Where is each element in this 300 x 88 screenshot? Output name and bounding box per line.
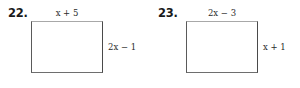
rectangle-width-label-23: 2x − 3 <box>186 8 258 18</box>
rectangle-outline-23 <box>186 21 258 73</box>
problem-number-22: 22. <box>8 7 28 19</box>
rectangle-height-label-23: x + 1 <box>263 42 286 52</box>
problem-22: 22. x + 5 2x − 1 <box>0 0 150 88</box>
problem-23: 23. 2x − 3 x + 1 <box>150 0 300 88</box>
exercise-figure-sheet: 22. x + 5 2x − 1 23. 2x − 3 x + 1 <box>0 0 300 88</box>
rectangle-height-label-22: 2x − 1 <box>108 42 136 52</box>
rectangle-width-label-22: x + 5 <box>31 8 103 18</box>
problem-number-23: 23. <box>158 7 178 19</box>
rectangle-outline-22 <box>31 21 103 73</box>
rectangle-figure-22: x + 5 2x − 1 <box>31 21 103 73</box>
rectangle-figure-23: 2x − 3 x + 1 <box>186 21 258 73</box>
